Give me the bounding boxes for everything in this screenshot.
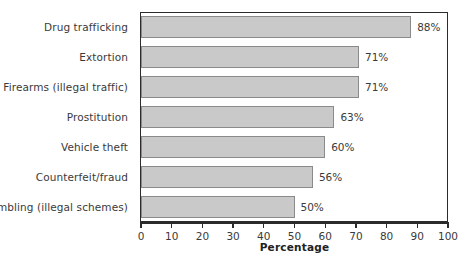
x-axis-tick <box>232 223 233 228</box>
bar-chart: Drug traffickingExtortionFirearms (illeg… <box>0 0 466 263</box>
x-axis-tick <box>355 223 356 228</box>
category-label: Gambling (illegal schemes) <box>0 201 128 213</box>
x-axis-tick <box>325 223 326 228</box>
bars-layer: 88%71%71%63%60%56%50% <box>141 12 448 222</box>
x-axis-tick <box>294 223 295 228</box>
x-axis-tick <box>140 223 141 228</box>
bar <box>141 46 359 68</box>
category-label: Prostitution <box>67 111 128 123</box>
x-axis-tick <box>263 223 264 228</box>
category-label: Counterfeit/fraud <box>36 171 128 183</box>
bar-value-label: 71% <box>365 51 388 63</box>
bar-value-label: 56% <box>319 171 342 183</box>
category-label: Drug trafficking <box>44 21 128 33</box>
category-label: Extortion <box>79 51 128 63</box>
bar-value-label: 60% <box>331 141 354 153</box>
bar <box>141 196 295 218</box>
bar-value-label: 63% <box>340 111 363 123</box>
bar <box>141 136 325 158</box>
x-axis: 0102030405060708090100 <box>141 222 448 223</box>
bar <box>141 76 359 98</box>
category-label: Vehicle theft <box>61 141 128 153</box>
bar <box>141 16 411 38</box>
bar <box>141 106 334 128</box>
category-label: Firearms (illegal traffic) <box>3 81 128 93</box>
x-axis-tick <box>386 223 387 228</box>
x-axis-tick <box>202 223 203 228</box>
x-axis-tick <box>171 223 172 228</box>
x-axis-tick <box>417 223 418 228</box>
x-axis-title: Percentage <box>141 241 448 253</box>
bar <box>141 166 313 188</box>
bar-value-label: 50% <box>301 201 324 213</box>
bar-value-label: 88% <box>417 21 440 33</box>
x-axis-tick <box>447 223 448 228</box>
bar-value-label: 71% <box>365 81 388 93</box>
category-axis-labels: Drug traffickingExtortionFirearms (illeg… <box>0 12 134 222</box>
